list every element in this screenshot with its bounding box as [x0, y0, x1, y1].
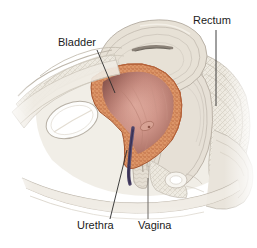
anatomy-figure: Rectum Bladder Urethra Vagina [0, 0, 257, 248]
label-vagina: Vagina [138, 219, 172, 231]
anatomy-illustration: Rectum Bladder Urethra Vagina [0, 0, 257, 248]
label-rectum: Rectum [193, 14, 231, 26]
label-bladder: Bladder [58, 36, 96, 48]
label-urethra: Urethra [77, 219, 115, 231]
edge-fade-bottom [0, 206, 257, 248]
